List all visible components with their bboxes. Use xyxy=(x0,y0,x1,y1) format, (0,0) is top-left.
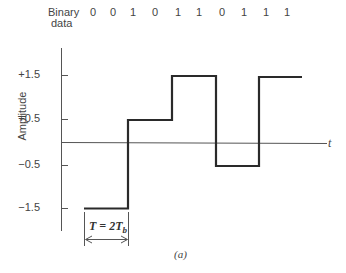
time-axis xyxy=(62,143,328,144)
period-label-subscript: b xyxy=(123,225,128,235)
ytick-minus-0-5: −0.5 xyxy=(8,158,40,170)
ytick-plus-1-5: +1.5 xyxy=(8,68,40,80)
x-axis-label: t xyxy=(328,136,331,151)
period-label: T = 2Tb xyxy=(89,219,127,235)
ytick-minus-1-5: −1.5 xyxy=(8,201,40,213)
waveform-chart xyxy=(0,0,346,273)
period-label-text: T = 2T xyxy=(89,219,123,233)
y-axis-label: Amplitude xyxy=(16,86,28,146)
figure-caption: (a) xyxy=(174,248,187,260)
